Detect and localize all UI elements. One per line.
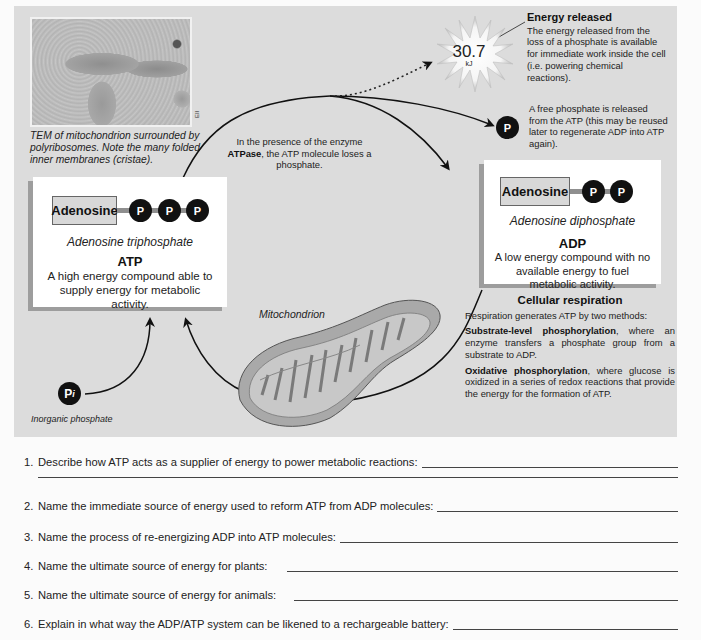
- answer-line[interactable]: [294, 589, 678, 601]
- atp-box: Adenosine P P P Adenosine triphosphate A…: [33, 177, 227, 307]
- adenosine-block: Adenosine: [500, 177, 570, 206]
- tem-caption: TEM of mitochondrion surrounded by polyr…: [30, 130, 200, 166]
- question-1: 1. Describe how ATP acts as a supplier o…: [24, 456, 678, 468]
- question-text: Explain in what way the ADP/ATP system c…: [38, 618, 449, 630]
- inorganic-phosphate-label: Inorganic phosphate: [31, 414, 113, 424]
- enzyme-note-prefix: In the presence of the enzyme: [236, 136, 362, 147]
- mitochondrion-label: Mitochondrion: [259, 308, 325, 320]
- question-number: 6.: [24, 618, 38, 630]
- energy-value: 30.7: [449, 44, 489, 60]
- answer-line[interactable]: [437, 500, 678, 512]
- question-5: 5. Name the ultimate source of energy fo…: [24, 589, 678, 601]
- question-text: Name the immediate source of energy used…: [38, 500, 433, 512]
- question-number: 1.: [24, 456, 38, 468]
- phosphate-icon: P: [129, 199, 152, 222]
- phosphate-icon: P: [186, 199, 209, 222]
- tem-mitochondrion-image: [30, 17, 192, 127]
- question-text: Name the ultimate source of energy for a…: [38, 589, 276, 601]
- cellular-respiration-title: Cellular respiration: [465, 295, 675, 307]
- question-3: 3. Name the process of re-energizing ADP…: [24, 531, 678, 543]
- question-text: Describe how ATP acts as a supplier of e…: [38, 456, 418, 468]
- energy-released-text: The energy released from the loss of a p…: [527, 25, 666, 83]
- method-name: Oxidative phosphorylation: [465, 365, 587, 376]
- atp-abbreviation: ATP: [33, 254, 227, 269]
- answer-line-continuation[interactable]: [38, 477, 678, 478]
- answer-line[interactable]: [340, 531, 678, 543]
- respiration-intro: Respiration generates ATP by two methods…: [465, 310, 675, 322]
- energy-released-note: Energy released The energy released from…: [527, 12, 667, 83]
- respiration-method: Substrate-level phosphorylation, where a…: [465, 325, 675, 360]
- enzyme-note: In the presence of the enzyme ATPase, th…: [222, 136, 377, 171]
- question-4: 4. Name the ultimate source of energy fo…: [24, 560, 678, 572]
- pi-symbol: P: [64, 387, 72, 401]
- adp-abbreviation: ADP: [484, 236, 661, 251]
- respiration-method: Oxidative phosphorylation, where glucose…: [465, 365, 675, 400]
- enzyme-note-suffix: , the ATP molecule loses a phosphate.: [261, 148, 371, 171]
- question-number: 2.: [24, 500, 38, 512]
- free-phosphate-note: A free phosphate is released from the AT…: [529, 103, 669, 150]
- question-number: 4.: [24, 560, 38, 572]
- phosphate-icon: P: [610, 180, 633, 203]
- energy-released-title: Energy released: [527, 12, 667, 24]
- question-number: 5.: [24, 589, 38, 601]
- energy-unit: kJ: [449, 60, 489, 67]
- enzyme-name: ATPase: [228, 148, 262, 159]
- cellular-respiration-note: Cellular respiration Respiration generat…: [465, 295, 675, 404]
- adp-full-name: Adenosine diphosphate: [484, 214, 661, 228]
- question-number: 3.: [24, 531, 38, 543]
- question-6: 6. Explain in what way the ADP/ATP syste…: [24, 618, 678, 630]
- atp-full-name: Adenosine triphosphate: [33, 235, 227, 249]
- answer-line[interactable]: [422, 456, 678, 468]
- adp-description: A low energy compound with no available …: [484, 251, 661, 292]
- atp-description: A high energy compound able to supply en…: [33, 269, 227, 311]
- pi-subscript: i: [72, 389, 75, 399]
- phosphate-icon: P: [582, 180, 605, 203]
- adenosine-block: Adenosine: [52, 196, 117, 225]
- free-phosphate-icon: P: [496, 116, 519, 139]
- inorganic-phosphate-icon: Pi: [58, 382, 81, 405]
- image-credit: EII: [194, 111, 200, 118]
- question-text: Name the ultimate source of energy for p…: [38, 560, 267, 572]
- question-2: 2. Name the immediate source of energy u…: [24, 500, 678, 512]
- answer-line[interactable]: [453, 618, 678, 630]
- question-text: Name the process of re-energizing ADP in…: [38, 531, 336, 543]
- answer-line[interactable]: [287, 560, 678, 572]
- phosphate-icon: P: [158, 199, 181, 222]
- method-name: Substrate-level phosphorylation: [465, 325, 616, 336]
- adp-box: Adenosine P P Adenosine diphosphate ADP …: [484, 160, 661, 284]
